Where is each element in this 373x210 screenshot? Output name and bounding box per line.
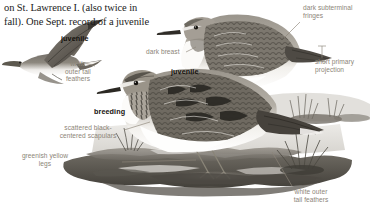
label-white-outer-tail-feathers-breeding: white outer tail feathers — [283, 188, 339, 203]
label-short-primary-projection: short primary projection — [315, 58, 354, 73]
intro-line-2: fall). One Sept. record of a juvenile — [4, 15, 172, 29]
label-dark-subterminal-fringes: dark subterminal fringes — [303, 4, 353, 19]
label-greenish-yellow-legs: greenish yellow legs — [12, 152, 78, 167]
illustration-plate: on St. Lawrence I. (also twice in fall).… — [0, 0, 373, 210]
leader-lines — [0, 0, 373, 210]
intro-line-1: on St. Lawrence I. (also twice in — [4, 1, 172, 15]
label-dark-breast: dark breast — [146, 48, 180, 56]
label-white-outer-tail-feathers-flight: white outer tail feathers — [56, 60, 100, 83]
label-juvenile-standing: juvenile — [171, 68, 199, 76]
label-juvenile-flight: juvenile — [61, 35, 89, 43]
label-scattered-black-centered-scapulars: scattered black- centered scapulars — [50, 124, 126, 139]
intro-paragraph: on St. Lawrence I. (also twice in fall).… — [4, 1, 172, 28]
label-breeding: breeding — [94, 108, 125, 116]
